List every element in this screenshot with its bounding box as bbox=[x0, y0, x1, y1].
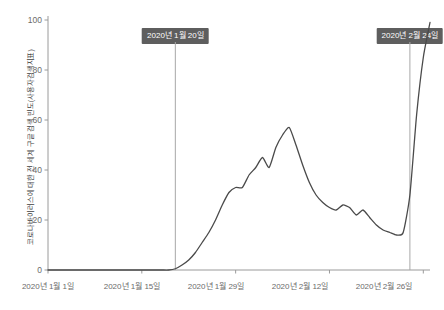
plot-area bbox=[0, 0, 434, 310]
chart-container: 코로나바이러스에 대한 전 세계 구글 검색 빈도(사용자검색지표) 100 8… bbox=[0, 0, 434, 310]
